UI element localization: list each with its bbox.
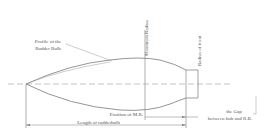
max-radius-label: Maximum Radius bbox=[144, 20, 149, 56]
rudder-bulb-diagram: Profile of the Rudder Bulb Maximum Radiu… bbox=[0, 0, 268, 135]
position-mr-label: Position of M.R. bbox=[110, 112, 143, 117]
gap-label-line1: the Gap bbox=[226, 109, 242, 114]
bulb-profile-upper bbox=[26, 58, 186, 84]
arrow-icon bbox=[26, 124, 30, 126]
bulb-profile-lower bbox=[26, 84, 186, 110]
radius-front-label: Radius of front bbox=[197, 35, 202, 66]
profile-label-line2: Rudder Bulb bbox=[35, 46, 61, 51]
length-label: Length of rudderbulb bbox=[77, 120, 120, 125]
arrow-icon bbox=[182, 116, 186, 118]
gap-label-line2: between hub and R.B. bbox=[208, 116, 252, 121]
arrow-icon bbox=[182, 124, 186, 126]
bulb-profile-upper-inner bbox=[26, 62, 110, 84]
profile-leader bbox=[66, 44, 112, 61]
profile-label-line1: Profile of the bbox=[35, 39, 62, 44]
